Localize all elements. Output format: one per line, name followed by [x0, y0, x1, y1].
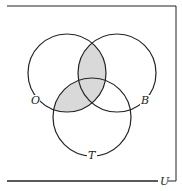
label-b: B [140, 94, 149, 107]
label-u: U [160, 175, 170, 188]
label-o: O [31, 94, 40, 107]
venn-diagram: O B T U [0, 0, 182, 191]
